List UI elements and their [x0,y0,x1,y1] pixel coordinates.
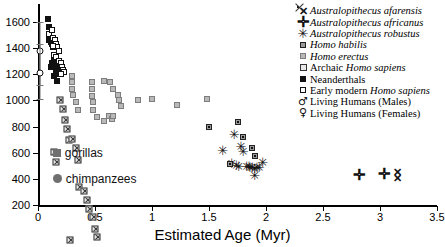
data-point [240,134,246,140]
data-point [204,96,210,102]
data-point [50,43,56,49]
legend-marker-icon [296,87,310,93]
legend-marker-icon: ♀ [296,108,310,118]
annotation-marker [53,174,62,183]
data-point: ✳ [217,146,228,155]
legend-item-0: ✕Australopithecus afarensis [296,5,444,16]
legend-marker-icon [296,64,310,71]
legend-label: Australopithecus robustus [310,28,420,39]
data-point: ✛ [353,170,366,179]
legend-label: Early modern Homo sapiens [310,85,430,96]
data-point [149,96,155,102]
data-point [63,126,70,133]
legend-label: Archaic Homo sapiens [310,62,406,73]
data-point [227,161,233,167]
data-point [89,79,95,85]
legend-marker-icon [296,76,310,82]
legend-label: Homo erectus [310,51,368,62]
data-point [89,214,96,221]
data-point [37,69,44,76]
y-tick-label: 800 [2,121,30,133]
legend-item-8: ♂Living Humans (Males) [296,96,444,107]
data-point [174,102,180,108]
x-tick-label: 0 [35,211,41,223]
data-point [69,86,75,92]
data-point [70,92,76,98]
data-point [94,234,101,241]
annotation-gorillas: gorillas [53,146,103,160]
error-bar-cap [37,22,44,23]
legend-label: Australopithecus africanus [310,17,423,28]
data-point [69,135,76,142]
data-point [92,226,99,233]
data-point [56,96,63,103]
data-point [49,60,55,66]
x-tick-label: 1 [149,211,155,223]
data-point: ✳ [238,147,249,156]
error-bar-cap [37,44,44,45]
x-tick-label: 3 [377,211,383,223]
data-point [86,206,93,213]
data-point [58,71,64,77]
data-point [84,196,91,203]
legend-item-5: Archaic Homo sapiens [296,62,444,73]
data-point [69,73,75,79]
data-point [80,187,87,194]
annotation-label: chimpanzees [66,172,137,186]
y-tick-label: 200 [2,199,30,211]
y-tick [33,127,38,128]
data-point [235,119,241,125]
data-point [62,117,69,124]
data-point: ✳ [257,157,268,166]
legend-label: Homo habilis [310,39,367,50]
x-tick-label: 2 [263,211,269,223]
x-tick-label: 1.5 [201,211,216,223]
legend-label: Australopithecus afarensis [310,5,422,16]
data-point [118,103,124,109]
annotation-chimpanzees: chimpanzees [53,172,137,186]
legend-marker-icon: ✳ [296,29,310,38]
error-bar-cap [37,99,44,100]
data-point: ✕ [393,174,402,182]
legend-item-2: ✳Australopithecus robustus [296,28,444,39]
chart-legend: ✕Australopithecus afarensis✛Australopith… [296,5,444,119]
data-point [110,86,116,92]
legend-item-3: Homo habilis [296,39,444,50]
annotation-marker [53,149,61,157]
legend-marker-icon [296,42,310,48]
data-point [49,27,55,33]
y-tick-label: 400 [2,173,30,185]
data-point [249,145,255,151]
y-tick-label: 600 [2,147,30,159]
y-tick [33,153,38,154]
legend-item-7: Early modern Homo sapiens [296,85,444,96]
data-point [90,107,96,113]
x-tick-label: 2.5 [315,211,330,223]
data-point [110,113,116,119]
legend-item-1: ✛Australopithecus africanus [296,16,444,27]
data-point: ✳ [229,130,240,139]
legend-item-9: ♀Living Humans (Females) [296,108,444,119]
y-tick [33,205,38,206]
data-point [94,114,100,120]
data-point [75,107,81,113]
data-point [107,79,113,85]
legend-label: Living Humans (Males) [310,96,411,107]
x-tick-label: 3.5 [429,211,444,223]
y-tick-label: 1600 [2,16,30,28]
legend-marker-icon [296,53,310,59]
y-tick [33,179,38,180]
y-tick [33,100,38,101]
data-point [89,93,95,99]
data-point [60,105,67,112]
data-point: ✛ [378,169,391,178]
data-point [206,124,212,130]
data-point [135,97,141,103]
data-point [66,236,73,243]
data-point: ✳ [249,170,260,179]
data-point [51,73,57,79]
data-point [252,153,258,159]
data-point [89,86,95,92]
legend-item-4: Homo erectus [296,51,444,62]
data-point [69,79,75,85]
